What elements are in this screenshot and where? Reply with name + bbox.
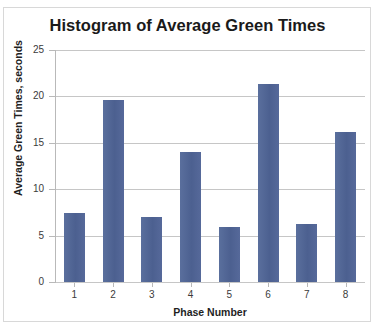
y-axis-tick-label: 20 (4, 91, 44, 101)
x-axis-tick-label: 8 (326, 289, 366, 300)
x-axis-tick (191, 283, 192, 287)
bar (180, 152, 201, 282)
y-axis-tick (49, 282, 55, 283)
x-axis-tick-label: 3 (132, 289, 172, 300)
x-axis-title: Phase Number (55, 306, 365, 318)
chart-figure: Histogram of Average Green Times Average… (0, 0, 375, 329)
x-axis-tick-label: 2 (93, 289, 133, 300)
x-axis-tick (74, 283, 75, 287)
x-axis-tick (229, 283, 230, 287)
x-axis-tick (268, 283, 269, 287)
bar (141, 217, 162, 282)
x-axis-tick (152, 283, 153, 287)
x-axis-tick (307, 283, 308, 287)
x-axis-tick-label: 6 (248, 289, 288, 300)
y-axis-tick-label: 0 (4, 277, 44, 287)
bar (219, 227, 240, 282)
y-axis-tick-label: 15 (4, 138, 44, 148)
bar (258, 84, 279, 282)
y-axis-tick-label: 10 (4, 184, 44, 194)
y-axis-title: Average Green Times, seconds (12, 8, 24, 228)
x-axis-tick-label: 4 (171, 289, 211, 300)
x-axis-tick-label: 1 (54, 289, 94, 300)
x-axis-tick (346, 283, 347, 287)
x-axis-tick-label: 5 (209, 289, 249, 300)
bar (103, 100, 124, 282)
y-axis-tick-label: 5 (4, 231, 44, 241)
bar (335, 132, 356, 282)
chart-title: Histogram of Average Green Times (0, 16, 375, 35)
bar-series (55, 50, 365, 282)
y-axis-tick-label: 25 (4, 45, 44, 55)
x-axis-tick (113, 283, 114, 287)
bar (296, 224, 317, 282)
bar (64, 213, 85, 282)
cropped-header-text (0, 0, 375, 6)
gridline (55, 282, 365, 283)
x-axis-tick-label: 7 (287, 289, 327, 300)
